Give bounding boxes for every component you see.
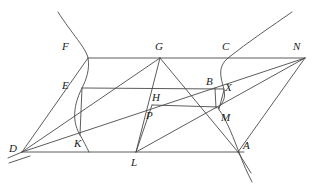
point-label-K: K	[74, 138, 81, 149]
chord-E-X	[82, 88, 224, 89]
point-label-H: H	[152, 92, 160, 103]
side-A-N	[238, 58, 305, 152]
point-label-X: X	[225, 82, 232, 93]
point-label-C: C	[222, 41, 229, 52]
segment-B-M	[215, 88, 216, 108]
point-label-E: E	[62, 80, 69, 91]
point-label-P: P	[146, 110, 153, 121]
point-label-G: G	[155, 41, 163, 52]
point-label-M: M	[221, 112, 230, 123]
point-label-D: D	[9, 143, 17, 154]
cevian-G-A	[160, 58, 238, 152]
point-label-A: A	[243, 140, 250, 151]
diagonal-D-N	[22, 58, 305, 152]
extended-ray-layer	[8, 152, 251, 173]
point-label-B: B	[206, 76, 213, 87]
right-hyperbola-branch	[218, 12, 292, 182]
segment-layer	[22, 58, 305, 152]
ray-below-D-lower	[9, 156, 30, 163]
point-label-N: N	[293, 41, 300, 52]
geometric-diagram: F G C N E B X H P M K D L A	[0, 0, 314, 184]
curve-layer	[58, 12, 292, 182]
point-label-L: L	[131, 157, 137, 168]
point-label-F: F	[62, 41, 69, 52]
